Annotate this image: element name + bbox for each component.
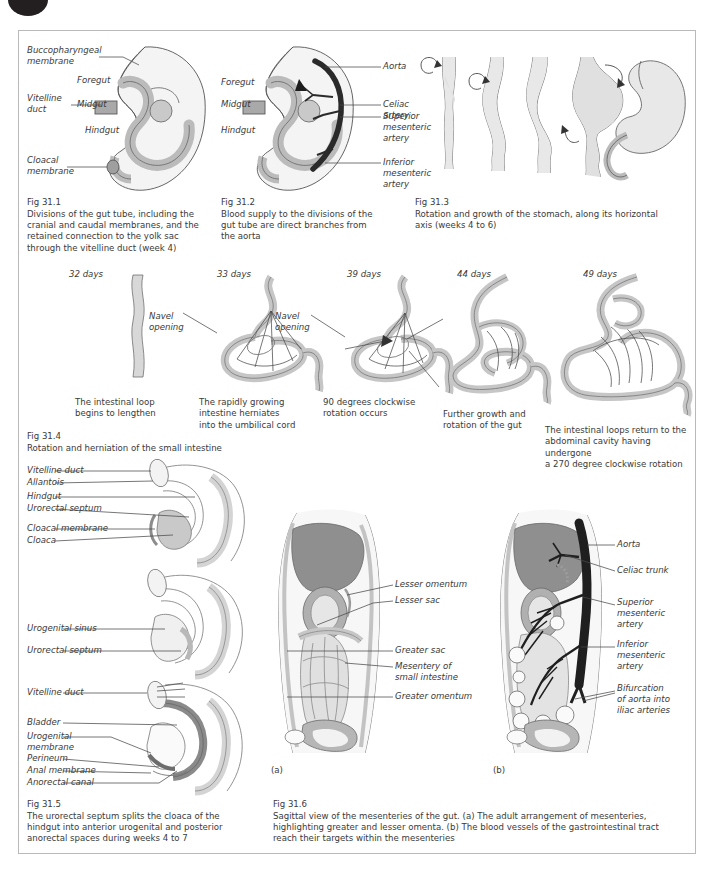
fig-31-4-caption: Rotation and herniation of the small int… — [27, 443, 327, 454]
figure-panel: Buccopharyngeal membrane Vitelline duct … — [18, 30, 696, 854]
fig-31-6-label-mesentery-small-intestine: Mesentery of small intestine — [395, 661, 471, 683]
fig-31-5-stage-2-illustration — [135, 683, 275, 803]
fig-31-5-label-urogenital-membrane: Urogenital membrane — [27, 731, 87, 753]
fig-31-5-label-vitelline-duct-0: Vitelline duct — [27, 465, 84, 476]
fig-31-1-number: Fig 31.1 — [27, 197, 61, 208]
fig-31-6-label-inferior-mesenteric-artery: Inferior mesenteric artery — [617, 639, 675, 672]
fig-31-5-label-perineum: Perineum — [27, 753, 68, 764]
fig-31-5-label-urogenital-sinus: Urogenital sinus — [27, 623, 97, 634]
fig-31-2-label-aorta: Aorta — [383, 61, 406, 72]
fig-31-5-label-anorectal-canal: Anorectal canal — [27, 777, 94, 788]
fig-31-6: Lesser omentum Lesser sac Greater sac Me… — [259, 509, 689, 854]
fig-31-3-caption: Rotation and growth of the stomach, alon… — [415, 209, 691, 231]
fig-31-5-number: Fig 31.5 — [27, 799, 61, 810]
fig-31-4-number: Fig 31.4 — [27, 431, 61, 442]
fig-31-4-note-1: The rapidly growing intestine herniates … — [199, 397, 319, 431]
fig-31-1: Buccopharyngeal membrane Vitelline duct … — [27, 39, 227, 269]
fig-31-1-label-vitelline-duct: Vitelline duct — [27, 93, 73, 115]
fig-31-5-label-allantois: Allantois — [27, 477, 64, 488]
fig-31-4-callout-navel-opening-2: Navel opening — [275, 311, 315, 333]
fig-31-6-label-greater-omentum: Greater omentum — [395, 691, 472, 702]
fig-31-5-label-hindgut: Hindgut — [27, 491, 61, 502]
fig-31-4-note-3: Further growth and rotation of the gut — [443, 409, 559, 432]
fig-31-4-callout-navel-opening-1: Navel opening — [149, 311, 189, 333]
fig-31-4-stage-4-illustration — [551, 275, 701, 415]
fig-31-5-label-anal-membrane: Anal membrane — [27, 765, 96, 776]
fig-31-6-number: Fig 31.6 — [273, 799, 307, 810]
fig-31-1-label-hindgut: Hindgut — [85, 125, 119, 136]
fig-31-3: Fig 31.3 Rotation and growth of the stom… — [415, 39, 691, 239]
fig-31-1-label-cloacal-membrane: Cloacal membrane — [27, 155, 87, 177]
fig-31-6-label-greater-sac: Greater sac — [395, 645, 445, 656]
page-number-badge — [8, 0, 48, 16]
fig-31-6-label-lesser-sac: Lesser sac — [395, 595, 440, 606]
fig-31-6-label-aorta: Aorta — [617, 539, 640, 550]
fig-31-2-label-midgut: Midgut — [221, 99, 251, 110]
fig-31-5-label-cloacal-membrane: Cloacal membrane — [27, 523, 108, 534]
fig-31-2-caption: Blood supply to the divisions of the gut… — [221, 209, 411, 243]
fig-31-5-label-cloaca: Cloaca — [27, 535, 56, 546]
fig-31-2: Foregut Midgut Hindgut Aorta Celiac arte… — [221, 39, 421, 269]
fig-31-4-stage-1-illustration — [197, 275, 337, 393]
fig-31-5: Vitelline duct Allantois Hindgut Urorect… — [27, 461, 277, 851]
fig-31-1-caption: Divisions of the gut tube, including the… — [27, 209, 227, 254]
fig-31-4-day-label-0: 32 days — [69, 269, 103, 279]
fig-31-1-label-buccopharyngeal: Buccopharyngeal membrane — [27, 45, 99, 67]
fig-31-5-stage-0-illustration — [137, 461, 267, 571]
fig-31-6-panel-a-key: (a) — [271, 765, 283, 775]
fig-31-6-panel-a-illustration — [269, 509, 389, 759]
fig-31-6-label-bifurcation-of-aorta: Bifurcation of aorta into iliac arteries — [617, 683, 679, 716]
fig-31-4-note-2: 90 degrees clockwise rotation occurs — [323, 397, 443, 420]
fig-31-6-label-celiac-trunk: Celiac trunk — [617, 565, 669, 576]
fig-31-2-number: Fig 31.2 — [221, 197, 255, 208]
fig-31-2-label-foregut: Foregut — [221, 77, 254, 88]
fig-31-4: 32 days The intestinal loop begins to le… — [27, 269, 689, 469]
fig-31-3-number: Fig 31.3 — [415, 197, 449, 208]
fig-31-6-caption: Sagittal view of the mesenteries of the … — [273, 811, 693, 845]
fig-31-4-stage-3-illustration — [439, 275, 569, 405]
fig-31-5-caption: The urorectal septum splits the cloaca o… — [27, 811, 267, 845]
fig-31-2-label-hindgut: Hindgut — [221, 125, 255, 136]
fig-31-5-stage-1-illustration — [137, 571, 267, 681]
fig-31-5-label-bladder: Bladder — [27, 717, 60, 728]
fig-31-6-panel-b-illustration — [491, 509, 611, 759]
fig-31-1-label-foregut: Foregut — [77, 75, 110, 86]
fig-31-4-note-4: The intestinal loops return to the abdom… — [545, 425, 695, 471]
fig-31-5-label-vitelline-duct-2: Vitelline duct — [27, 687, 84, 698]
fig-31-1-label-midgut: Midgut — [77, 99, 107, 110]
fig-31-5-label-urorectal-septum-0: Urorectal septum — [27, 503, 102, 514]
fig-31-6-label-superior-mesenteric-artery: Superior mesenteric artery — [617, 597, 675, 630]
fig-31-4-note-0: The intestinal loop begins to lengthen — [75, 397, 185, 420]
fig-31-3-illustration — [415, 39, 691, 189]
fig-31-5-label-urorectal-septum-1: Urorectal septum — [27, 645, 102, 656]
fig-31-6-label-lesser-omentum: Lesser omentum — [395, 579, 467, 590]
fig-31-6-panel-b-key: (b) — [493, 765, 505, 775]
